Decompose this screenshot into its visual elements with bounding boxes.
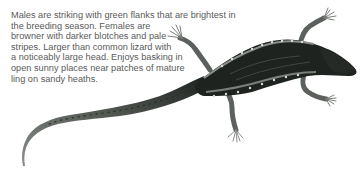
fore-leg-left: [300, 8, 336, 44]
lizard-tail: [22, 76, 204, 166]
fore-leg-right: [303, 74, 336, 106]
hind-leg-left: [168, 25, 210, 70]
lizard-illustration: [0, 0, 363, 175]
